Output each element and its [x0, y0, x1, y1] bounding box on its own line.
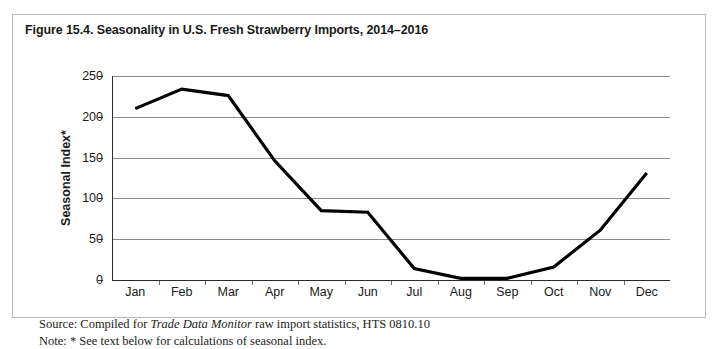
x-tick-label-apr: Apr — [265, 285, 284, 299]
x-tick-label-aug: Aug — [450, 285, 472, 299]
x-tick-label-nov: Nov — [589, 285, 611, 299]
seasonal-index-line-series — [112, 76, 670, 281]
x-tick-label-sep: Sep — [496, 285, 518, 299]
x-tick-label-jun: Jun — [358, 285, 378, 299]
x-tick-label-oct: Oct — [544, 285, 563, 299]
x-tick-label-jul: Jul — [406, 285, 422, 299]
y-tick-mark-250 — [98, 76, 103, 77]
x-tick-label-dec: Dec — [636, 285, 658, 299]
x-tick-label-mar: Mar — [217, 285, 239, 299]
x-tick-label-jan: Jan — [125, 285, 145, 299]
note-line: Note: * See text below for calculations … — [39, 333, 430, 349]
source-line: Source: Compiled for Trade Data Monitor … — [39, 316, 430, 333]
y-tick-mark-0 — [98, 280, 103, 281]
y-axis-title: Seasonal Index* — [43, 0, 57, 113]
x-tick-label-may: May — [309, 285, 333, 299]
series-polyline — [135, 89, 647, 278]
figure-container: Figure 15.4. Seasonality in U.S. Fresh S… — [12, 14, 706, 318]
source-publication: Trade Data Monitor — [150, 317, 251, 331]
source-suffix: raw import statistics, HTS 0810.10 — [252, 317, 430, 331]
x-axis-tick-labels: JanFebMarAprMayJunJulAugSepOctNovDec — [112, 285, 670, 303]
y-tick-mark-200 — [98, 117, 103, 118]
y-tick-mark-150 — [98, 158, 103, 159]
x-tick-label-feb: Feb — [171, 285, 193, 299]
y-axis-tick-labels: 050100150200250 — [59, 15, 103, 349]
y-tick-mark-50 — [98, 239, 103, 240]
figure-footer: Source: Compiled for Trade Data Monitor … — [39, 316, 430, 349]
source-prefix: Source: Compiled for — [39, 317, 150, 331]
y-tick-mark-100 — [98, 198, 103, 199]
